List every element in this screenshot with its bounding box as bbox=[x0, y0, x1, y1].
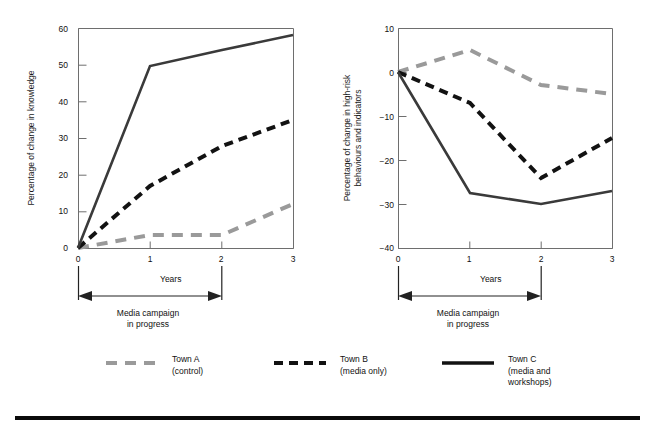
legend-label-line1: Town C bbox=[508, 354, 536, 364]
axis-frame bbox=[79, 29, 294, 249]
legend-label-line2: (control) bbox=[172, 366, 203, 378]
chart-panel-high-risk: Percentage of change in high-risk behavi… bbox=[324, 0, 648, 345]
campaign-bracket-knowledge bbox=[79, 266, 222, 300]
series-line-town-b bbox=[78, 120, 293, 248]
y-axis-ticks bbox=[399, 29, 407, 249]
legend-label-town-a: Town A (control) bbox=[172, 354, 203, 377]
chart-panel-knowledge: Percentage of change in knowledge 0 10 2… bbox=[0, 0, 324, 345]
campaign-bracket-high-risk bbox=[399, 266, 542, 300]
x-axis-ticks bbox=[79, 242, 294, 249]
series-line-town-a bbox=[78, 204, 293, 248]
legend: Town A (control) Town B (media only) Tow… bbox=[0, 352, 648, 407]
bottom-divider-rule bbox=[15, 416, 640, 420]
legend-label-town-b: Town B (media only) bbox=[340, 354, 387, 377]
legend-label-line2: (media and bbox=[508, 366, 551, 378]
x-axis-ticks bbox=[399, 242, 613, 249]
legend-swatch-dashed-gray-icon bbox=[106, 360, 158, 366]
legend-swatch-dashed-black-icon bbox=[274, 360, 326, 366]
figure-container: Percentage of change in knowledge 0 10 2… bbox=[0, 0, 648, 429]
legend-label-line1: Town B bbox=[340, 354, 368, 364]
series-line-town-c bbox=[78, 35, 293, 248]
legend-label-line1: Town A bbox=[172, 354, 199, 364]
legend-swatch-solid-black-icon bbox=[442, 360, 494, 366]
plot-area-knowledge bbox=[0, 0, 324, 345]
y-axis-ticks bbox=[79, 29, 87, 249]
legend-label-line2: (media only) bbox=[340, 366, 387, 378]
legend-label-town-c: Town C (media and workshops) bbox=[508, 354, 551, 389]
plot-area-high-risk bbox=[324, 0, 648, 345]
legend-label-line3: workshops) bbox=[508, 377, 551, 389]
